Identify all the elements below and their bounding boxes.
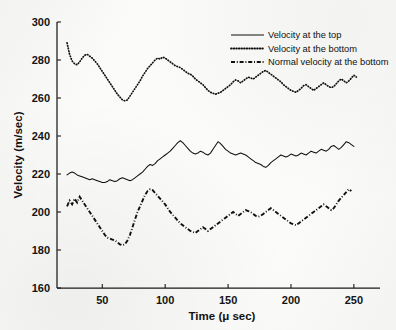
figure-page: 160180200220240260280300 50100150200250 … — [0, 0, 396, 330]
y-tick-label: 180 — [32, 244, 50, 256]
x-axis-title: Time (μ sec) — [189, 310, 256, 322]
chart-legend: Velocity at the topVelocity at the botto… — [231, 30, 389, 67]
legend-label-0: Velocity at the top — [268, 30, 341, 40]
y-tick-label: 240 — [32, 130, 50, 142]
x-tick-label: 100 — [156, 294, 174, 306]
velocity-time-line-chart: 160180200220240260280300 50100150200250 … — [0, 0, 396, 330]
x-tick-label: 250 — [345, 294, 363, 306]
legend-label-1: Velocity at the bottom — [268, 44, 357, 54]
legend-label-2: Normal velocity at the bottom — [268, 57, 389, 67]
y-axis-tick-labels: 160180200220240260280300 — [32, 16, 50, 294]
series-line-2 — [67, 189, 351, 245]
x-tick-label: 200 — [282, 294, 300, 306]
y-tick-label: 160 — [32, 282, 50, 294]
y-tick-label: 200 — [32, 206, 50, 218]
chart-figure: 160180200220240260280300 50100150200250 … — [0, 0, 396, 330]
y-tick-label: 280 — [32, 54, 50, 66]
x-tick-label: 50 — [96, 294, 108, 306]
y-tick-label: 220 — [32, 168, 50, 180]
x-axis-tick-labels: 50100150200250 — [96, 294, 363, 306]
y-tick-label: 300 — [32, 16, 50, 28]
y-axis-title: Velocity (m/sec) — [12, 111, 24, 198]
x-tick-label: 150 — [219, 294, 237, 306]
data-series-layer — [67, 43, 356, 245]
series-line-0 — [67, 141, 354, 183]
y-tick-label: 260 — [32, 92, 50, 104]
